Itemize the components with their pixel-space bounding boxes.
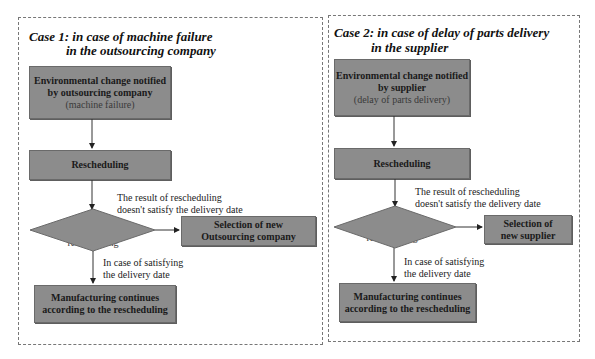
case2-decision-diamond (334, 206, 456, 248)
flow-connectors (0, 0, 595, 359)
case1-decision-diamond (30, 209, 155, 251)
